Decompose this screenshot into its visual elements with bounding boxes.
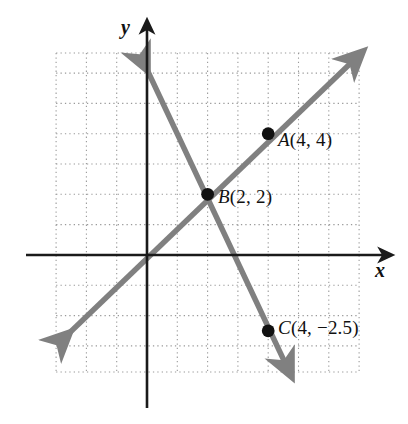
point-label-b-coords: (2, 2) bbox=[230, 186, 272, 207]
y-axis-label: y bbox=[121, 16, 130, 39]
point-label-b: B(2, 2) bbox=[218, 186, 272, 208]
point-B bbox=[201, 188, 214, 201]
point-label-c-name: C bbox=[278, 317, 291, 338]
line-through-B-C bbox=[143, 61, 287, 367]
point-C bbox=[262, 324, 275, 337]
point-A bbox=[262, 127, 275, 140]
point-label-a: A(4, 4) bbox=[278, 129, 332, 151]
point-label-b-name: B bbox=[218, 186, 230, 207]
point-label-a-coords: (4, 4) bbox=[290, 129, 332, 150]
plot-canvas bbox=[0, 0, 408, 424]
point-label-c: C(4, −2.5) bbox=[278, 317, 359, 339]
x-axis-label: x bbox=[375, 259, 385, 282]
point-label-a-name: A bbox=[278, 129, 290, 150]
point-label-c-coords: (4, −2.5) bbox=[291, 317, 359, 338]
coordinate-plane-figure: A(4, 4) B(2, 2) C(4, −2.5) y x bbox=[0, 0, 408, 424]
